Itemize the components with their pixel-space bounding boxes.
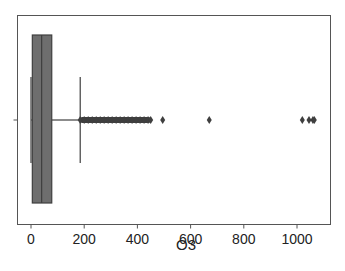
x-axis-label: O3 <box>176 236 196 253</box>
x-tick-label: 400 <box>126 231 150 247</box>
x-tick-label: 0 <box>27 231 35 247</box>
x-tick-label: 800 <box>232 231 256 247</box>
x-tick-label: 1000 <box>281 231 312 247</box>
x-tick-label: 200 <box>73 231 97 247</box>
boxplot-chart: 02004006008001000 O3 <box>0 0 345 271</box>
x-axis: 02004006008001000 <box>27 225 313 247</box>
